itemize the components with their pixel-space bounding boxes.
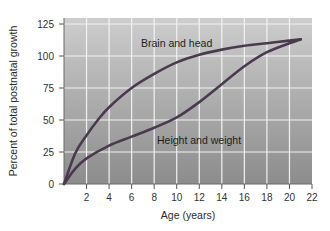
x-axis: 246810121416182022 <box>64 184 318 203</box>
annotation-height-and-weight: Height and weight <box>157 134 241 146</box>
y-tick-label: 100 <box>37 51 54 62</box>
y-tick-label: 25 <box>43 147 55 158</box>
y-tick-label: 0 <box>48 179 54 190</box>
x-tick-label: 8 <box>151 192 157 203</box>
y-tick-label: 125 <box>37 19 54 30</box>
y-axis-label: Percent of total postnatal growth <box>7 26 19 177</box>
x-axis-label: Age (years) <box>161 209 215 221</box>
annotation-brain-and-head: Brain and head <box>141 37 212 49</box>
x-tick-label: 20 <box>284 192 296 203</box>
y-tick-label: 50 <box>43 115 55 126</box>
x-tick-label: 14 <box>216 192 228 203</box>
x-tick-label: 10 <box>171 192 183 203</box>
x-tick-label: 12 <box>194 192 206 203</box>
y-tick-label: 75 <box>43 83 55 94</box>
x-tick-label: 4 <box>106 192 112 203</box>
x-tick-label: 6 <box>129 192 135 203</box>
growth-chart: 0255075100125 246810121416182022 Brain a… <box>0 0 330 231</box>
x-tick-label: 22 <box>306 192 318 203</box>
x-tick-label: 2 <box>84 192 90 203</box>
x-tick-label: 16 <box>239 192 251 203</box>
y-axis: 0255075100125 <box>37 18 64 190</box>
x-tick-label: 18 <box>261 192 273 203</box>
